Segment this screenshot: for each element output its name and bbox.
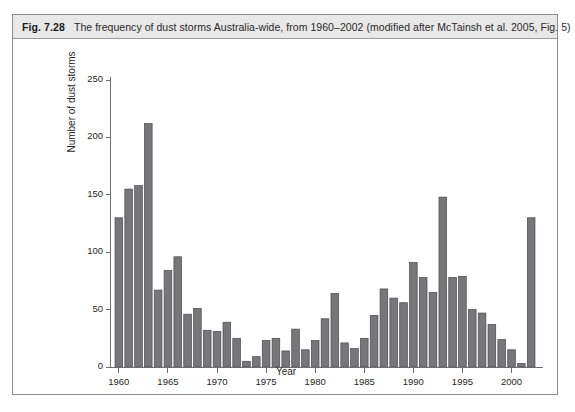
x-axis-tick-label: 1975 — [241, 376, 291, 387]
x-axis-title: Year — [13, 366, 559, 377]
x-axis-tick-label: 1995 — [437, 376, 487, 387]
bar — [321, 319, 329, 367]
figure-caption: Fig. 7.28 The frequency of dust storms A… — [13, 15, 557, 39]
bar — [370, 315, 378, 367]
bar — [262, 341, 270, 367]
figure-root: Fig. 7.28 The frequency of dust storms A… — [0, 0, 575, 412]
bar — [223, 322, 231, 367]
bar — [144, 124, 152, 367]
bar — [390, 298, 398, 367]
bars-group — [115, 124, 535, 367]
bar — [282, 351, 290, 367]
bar — [508, 350, 516, 367]
bar — [292, 329, 300, 367]
bar — [360, 338, 368, 367]
bar — [380, 289, 388, 367]
bar — [311, 341, 319, 367]
bar — [184, 314, 192, 367]
bar — [459, 276, 467, 367]
bar — [478, 313, 486, 367]
bar — [351, 349, 359, 367]
bar — [194, 308, 202, 367]
bar — [213, 331, 221, 367]
bar — [341, 343, 349, 367]
y-axis-title-text: Number of dust storms — [66, 37, 77, 167]
bar — [272, 338, 280, 367]
y-axis-title: Number of dust storms — [66, 37, 77, 167]
x-axis-tick-label: 1990 — [388, 376, 438, 387]
x-axis-tick-label: 1965 — [143, 376, 193, 387]
figure-number: Fig. 7.28 — [22, 21, 65, 33]
y-axis-tick-label: 50 — [65, 303, 103, 314]
x-axis-tick-label: 2000 — [487, 376, 537, 387]
figure-caption-text: The frequency of dust storms Australia-w… — [74, 21, 571, 33]
bar — [125, 189, 133, 367]
plot-area: 050100150200250 196019651970197519801985… — [13, 39, 559, 395]
bar — [419, 277, 427, 367]
x-axis-tick-label: 1985 — [339, 376, 389, 387]
bar — [488, 325, 496, 367]
bar — [429, 292, 437, 367]
bar — [233, 338, 241, 367]
bar — [302, 350, 310, 367]
bar — [498, 339, 506, 367]
bar — [410, 263, 418, 367]
bar — [154, 290, 162, 367]
x-axis-tick-label: 1970 — [192, 376, 242, 387]
bar — [439, 197, 447, 367]
figure-frame: Fig. 7.28 The frequency of dust storms A… — [12, 14, 558, 395]
bar — [115, 218, 123, 367]
bar — [468, 310, 476, 367]
bar — [164, 271, 172, 367]
bar — [400, 303, 408, 367]
bar — [527, 218, 535, 367]
bar-chart — [13, 39, 559, 395]
bar — [174, 257, 182, 367]
y-axis-tick-label: 100 — [65, 245, 103, 256]
y-axis-tick-label: 150 — [65, 188, 103, 199]
bar — [135, 186, 143, 367]
bar — [331, 294, 339, 367]
x-axis-tick-label: 1960 — [94, 376, 144, 387]
bar — [203, 330, 211, 367]
x-axis-tick-label: 1980 — [290, 376, 340, 387]
bar — [449, 277, 457, 367]
